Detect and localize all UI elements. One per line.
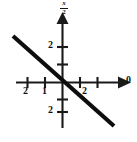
- graph-figure: x 2 2 1 2 2 2 0: [0, 0, 137, 142]
- y-axis-title-numerator: x: [56, 0, 72, 7]
- coordinate-plane-svg: [0, 0, 137, 142]
- x-axis-end-label: 0: [126, 75, 131, 85]
- y-axis-title-denominator: 2: [56, 9, 72, 16]
- x-tick-label-neg1: 1: [42, 86, 47, 96]
- x-tick-label-pos2: 2: [82, 86, 87, 96]
- y-axis-title: x 2: [56, 0, 72, 16]
- x-tick-label-neg2: 2: [23, 86, 28, 96]
- y-tick-label-neg2: 2: [48, 105, 53, 115]
- y-tick-label-pos2: 2: [48, 40, 53, 50]
